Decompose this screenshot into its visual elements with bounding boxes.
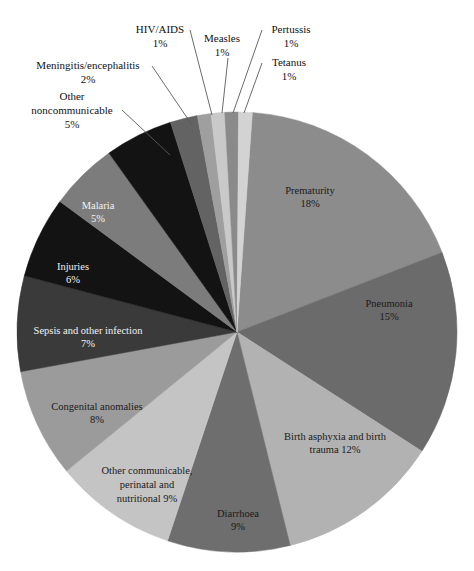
slice-label-extra-line: nutritional 9% xyxy=(117,493,178,504)
pie-chart-figure: Prematurity18%Pneumonia15%Birth asphyxia… xyxy=(0,0,474,571)
callout-label-text: HIV/AIDS xyxy=(136,23,184,35)
callout-label-text: 1% xyxy=(153,37,168,49)
slice-label-name: Sepsis and other infection xyxy=(34,325,144,336)
slice-label-name: Injuries xyxy=(57,261,89,272)
slice-label-name: Diarrhoea xyxy=(217,508,259,519)
slice-label-name: Congenital anomalies xyxy=(51,401,142,412)
callout-label-text: 1% xyxy=(215,46,230,58)
callout-label-text: 1% xyxy=(282,70,297,82)
callout-text-labels: Othernoncommunicable5%Meningitis/encepha… xyxy=(31,23,310,130)
slice-label-percent: 7% xyxy=(81,338,95,349)
callout-label-text: noncommunicable xyxy=(31,104,112,116)
slice-label-percent: 15% xyxy=(379,311,399,322)
callout-label-text: 5% xyxy=(65,118,80,130)
slice-label-extra-line: perinatal and xyxy=(120,479,175,490)
callout-label-text: Measles xyxy=(204,32,240,44)
callout-label-text: Tetanus xyxy=(272,56,306,68)
callout-leader-line xyxy=(222,58,228,113)
slice-label-percent: 6% xyxy=(66,274,80,285)
callout-label-text: Meningitis/encephalitis xyxy=(36,59,139,71)
slice-label-percent: 8% xyxy=(90,414,104,425)
slice-label-percent: 18% xyxy=(300,198,320,209)
slice-label-percent: 5% xyxy=(91,213,105,224)
callout-label-text: 2% xyxy=(81,73,96,85)
callout-label-text: Pertussis xyxy=(271,23,310,35)
slice-label-name: Prematurity xyxy=(285,185,335,196)
slice-label-name: Birth asphyxia and birth xyxy=(284,431,387,442)
slice-label-name: Pneumonia xyxy=(365,298,413,309)
callout-label-text: Other xyxy=(59,90,84,102)
pie-chart-canvas: Prematurity18%Pneumonia15%Birth asphyxia… xyxy=(0,0,474,571)
slice-label-percent: 9% xyxy=(231,521,245,532)
slice-label-name: Malaria xyxy=(82,200,115,211)
slice-label-percent: trauma 12% xyxy=(309,444,360,455)
callout-label-text: 1% xyxy=(284,37,299,49)
slice-label-name: Other communicable, xyxy=(102,465,193,476)
callout-leader-line xyxy=(152,66,192,125)
callout-leader-line xyxy=(244,63,262,113)
